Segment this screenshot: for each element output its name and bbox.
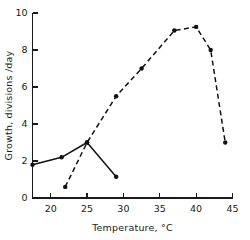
x-tick-label-30: 30: [117, 203, 129, 214]
data-point-dashed-series-4: [172, 28, 176, 32]
data-point-dashed-series-6: [208, 48, 212, 52]
x-axis-title: Temperature, °C: [91, 222, 173, 233]
x-tick-label-25: 25: [81, 203, 93, 214]
y-tick-label-8: 8: [21, 44, 27, 55]
data-point-dashed-series-2: [114, 94, 118, 98]
x-tick-label-35: 35: [154, 203, 166, 214]
data-point-dashed-series-0: [63, 185, 67, 189]
data-point-dashed-series-3: [139, 66, 143, 70]
data-point-dashed-series-5: [194, 25, 198, 29]
y-tick-label-0: 0: [21, 192, 27, 203]
data-point-solid-series-1: [59, 155, 63, 159]
x-tick-label-20: 20: [45, 203, 57, 214]
chart-canvas: 2025303540450246810Temperature, °CGrowth…: [0, 0, 250, 240]
data-point-solid-series-3: [114, 175, 118, 179]
y-tick-label-4: 4: [21, 118, 27, 129]
data-point-solid-series-0: [30, 163, 34, 167]
data-point-dashed-series-1: [85, 140, 89, 144]
data-point-dashed-series-7: [223, 140, 227, 144]
x-tick-label-40: 40: [190, 203, 202, 214]
x-tick-label-45: 45: [226, 203, 238, 214]
axis-spines: [33, 13, 233, 198]
series-line-dashed-series: [65, 27, 225, 187]
y-axis-title: Growth, divisions /day: [3, 50, 14, 160]
y-tick-label-2: 2: [21, 155, 27, 166]
y-tick-label-10: 10: [15, 7, 27, 18]
growth-vs-temperature-chart: 2025303540450246810Temperature, °CGrowth…: [0, 0, 250, 240]
series-line-solid-series: [33, 143, 117, 177]
y-tick-label-6: 6: [21, 81, 27, 92]
